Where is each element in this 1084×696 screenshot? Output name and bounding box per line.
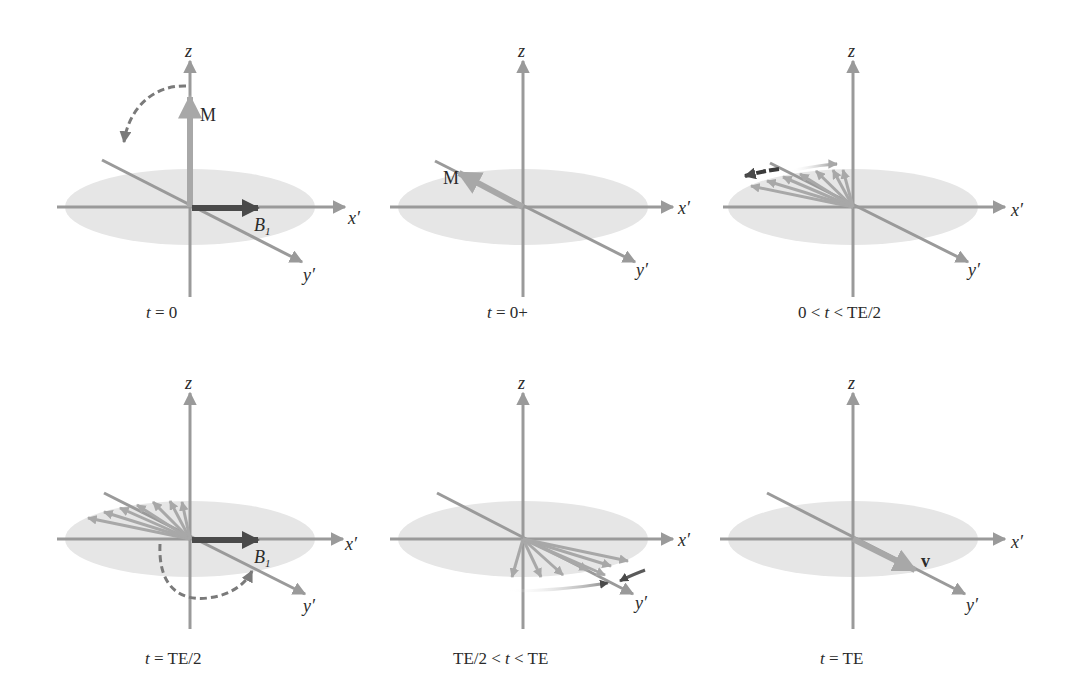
spin-echo-diagram: z x′ y′ M B1 t = 0 z x′ y′ M t = 0+ [0,0,1084,696]
panel-dephasing: z x′ y′ 0 < t < TE/2 [723,41,1024,322]
z-label: z [847,373,855,393]
caption-t0: t = 0 [146,303,177,322]
panel-t0plus: z x′ y′ M t = 0+ [390,41,691,322]
z-label: z [517,373,525,393]
panel-echo: z x′ y′ v t = TE [720,373,1024,668]
caption-dephasing: 0 < t < TE/2 [798,303,881,322]
caption-echo: t = TE [820,649,863,668]
x-label: x′ [677,198,691,218]
m-label: M [443,168,459,188]
y-label: y′ [301,265,316,285]
caption-te-half: t = TE/2 [145,649,202,668]
y-label: y′ [964,595,979,615]
panel-t0: z x′ y′ M B1 t = 0 [57,41,361,322]
x-label: x′ [344,534,358,554]
z-label: z [184,41,192,61]
x-label: x′ [1010,532,1024,552]
x-label: x′ [347,208,361,228]
y-label: y′ [301,596,316,616]
z-label: z [184,373,192,393]
y-label: y′ [634,260,649,280]
fast-spin-arc [745,169,779,176]
flip-arc-dashed [124,86,186,142]
z-label: z [517,41,525,61]
x-label: x′ [1010,200,1024,220]
y-label: y′ [966,260,981,280]
y-label: y′ [633,593,648,613]
caption-t0plus: t = 0+ [487,303,528,322]
panel-te-half: z x′ y′ B1 t = TE/2 [57,373,358,668]
panel-rephasing: z x′ y′ TE/2 < t < TE [390,373,691,668]
fast-spin-return-arc [620,570,645,581]
m-label: M [200,105,216,125]
z-label: z [847,41,855,61]
v-label: v [921,551,930,571]
x-label: x′ [677,530,691,550]
caption-rephasing: TE/2 < t < TE [453,649,548,668]
